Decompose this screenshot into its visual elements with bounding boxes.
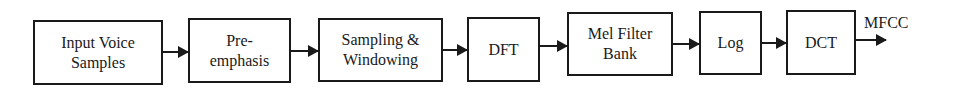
block-dct: DCT [786, 10, 856, 75]
block-pre-emphasis: Pre- emphasis [188, 18, 291, 83]
block-log: Log [699, 11, 762, 75]
output-label-mfcc: MFCC [864, 14, 908, 32]
block-label: DFT [488, 40, 518, 60]
block-label: Pre- emphasis [210, 31, 270, 71]
arrow-dft-to-melfilter [540, 45, 567, 47]
arrow-dct-to-output [856, 39, 886, 41]
arrow-melfilter-to-log [673, 43, 699, 45]
block-label: Mel Filter Bank [588, 24, 652, 64]
block-label: Sampling & Windowing [342, 30, 420, 70]
block-input-voice-samples: Input Voice Samples [33, 20, 163, 85]
block-label: DCT [805, 33, 837, 53]
block-sampling-windowing: Sampling & Windowing [318, 18, 443, 82]
arrow-log-to-dct [762, 42, 786, 44]
arrow-input-to-preemphasis [163, 51, 188, 53]
block-label: Input Voice Samples [61, 33, 135, 73]
block-mel-filter-bank: Mel Filter Bank [567, 12, 673, 76]
arrow-sampling-to-dft [443, 49, 467, 51]
arrow-preemphasis-to-sampling [291, 50, 318, 52]
block-dft: DFT [467, 17, 540, 82]
block-label: Log [718, 33, 744, 53]
